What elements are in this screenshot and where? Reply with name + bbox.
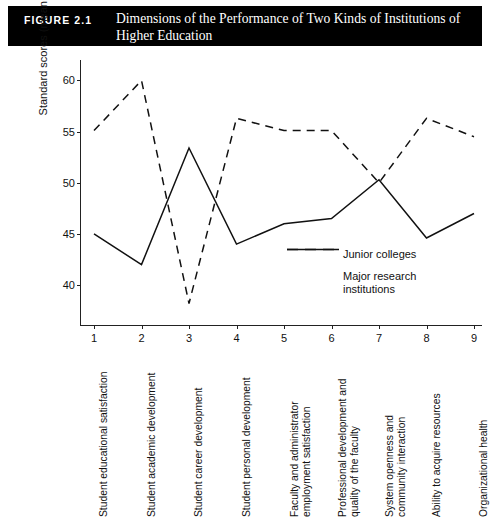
series-lines <box>81 60 483 326</box>
x-tick-label: 8 <box>423 332 429 344</box>
figure-number: FIGURE 2.1 <box>8 6 116 26</box>
x-category-label-line: Organizational health <box>478 420 490 517</box>
x-tick-label: 4 <box>233 332 239 344</box>
y-tick-label: 60 <box>63 74 75 86</box>
x-category-label-line: community interaction <box>396 415 408 517</box>
x-category-label: System openness andcommunity interaction <box>384 415 408 517</box>
legend-label-line-2: institutions <box>343 283 416 296</box>
series-line-junior-colleges <box>94 148 474 265</box>
x-category-label: Professional development andquality of t… <box>337 378 361 517</box>
x-category-label: Faculty and administratoremployment sati… <box>289 401 313 517</box>
x-category-label-line: Professional development and <box>337 378 349 517</box>
figure-banner: FIGURE 2.1 Dimensions of the Performance… <box>8 6 482 46</box>
figure-title: Dimensions of the Performance of Two Kin… <box>116 6 482 44</box>
x-tick-label: 1 <box>91 332 97 344</box>
x-tick-label: 9 <box>471 332 477 344</box>
x-category-label-line: Ability to acquire resources <box>431 393 443 517</box>
legend-label-junior-colleges: Junior colleges <box>343 248 416 261</box>
y-tick-label: 55 <box>63 126 75 138</box>
x-tick-label: 2 <box>138 332 144 344</box>
y-tick-label: 40 <box>63 279 75 291</box>
x-category-label-line: Faculty and administrator <box>289 401 301 517</box>
x-category-label: Student personal development <box>241 377 253 517</box>
legend-item-major-research: Major research institutions <box>287 270 416 296</box>
x-category-label-line: Student career development <box>193 388 205 517</box>
y-tick-label: 45 <box>63 228 75 240</box>
legend-label-major-research: Major research institutions <box>343 270 416 296</box>
x-category-label: Student career development <box>193 388 205 517</box>
x-category-label-line: System openness and <box>384 415 396 517</box>
legend-dashed-line-swatch <box>287 270 343 276</box>
x-tick-label: 5 <box>281 332 287 344</box>
y-tick-label: 50 <box>63 177 75 189</box>
y-axis-label: Standard scores (mean = 50) <box>37 0 49 144</box>
x-category-label: Organizational health <box>478 420 490 517</box>
series-line-major-research-institutions <box>94 80 474 303</box>
x-category-label-line: quality of the faculty <box>349 378 361 517</box>
x-category-label: Student educational satisfaction <box>98 372 110 517</box>
plot-area: Standard scores (mean = 50) 4045505560 1… <box>80 60 482 326</box>
x-tick-label: 3 <box>186 332 192 344</box>
x-category-label: Student academic development <box>146 373 158 517</box>
legend-label-line-1: Major research <box>343 270 416 283</box>
x-category-label: Ability to acquire resources <box>431 393 443 517</box>
x-category-label-line: Student academic development <box>146 373 158 517</box>
chart-legend: Junior colleges Major research instituti… <box>287 248 416 306</box>
x-category-label-line: Student educational satisfaction <box>98 372 110 517</box>
x-category-label-line: Student personal development <box>241 377 253 517</box>
x-tick-label: 6 <box>328 332 334 344</box>
legend-label-line-1: Junior colleges <box>343 248 416 261</box>
x-category-label-line: employment satisfaction <box>301 401 313 517</box>
x-tick-label: 7 <box>376 332 382 344</box>
